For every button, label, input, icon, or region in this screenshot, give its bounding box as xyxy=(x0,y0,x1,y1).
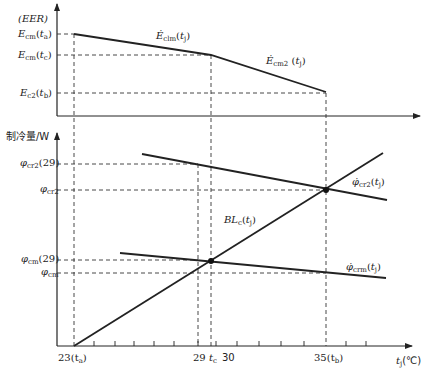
x-tick-label-30: 30 xyxy=(222,353,235,363)
top-y-axis-label: (EER) xyxy=(18,14,48,24)
tick-label-phi-cm: φcm xyxy=(41,267,59,279)
bottom-chart-axes xyxy=(57,133,412,346)
eer-cooling-capacity-diagram: (EER) Ecm(ta) Ecm(tc) Ec2(tb) Ėclm(tj) Ė… xyxy=(0,0,429,374)
intersection-point-tc xyxy=(208,258,214,264)
tick-label-phi-cm-29: φcm(29) xyxy=(21,254,59,266)
phi-cr2-curve xyxy=(142,154,387,200)
tick-label-phi-cr2-29: φcr2(29) xyxy=(20,158,59,170)
bottom-chart-guides xyxy=(57,164,326,346)
curve-label-bl-c: BLc(tj) xyxy=(224,215,256,227)
x-axis-ticks xyxy=(94,341,366,346)
curve-label-ecm2: Ėcm2 (tj) xyxy=(266,56,306,68)
x-tick-label-35: 35(tb) xyxy=(314,353,343,365)
curve-label-eclm: Ėclm(tj) xyxy=(156,31,190,43)
x-axis-label: tj(℃) xyxy=(396,356,421,368)
tick-label-ecm-ta: Ecm(ta) xyxy=(18,29,52,41)
x-tick-label-23: 23(ta) xyxy=(58,353,87,365)
tick-label-ecm-tc: Ecm(tc) xyxy=(18,50,52,62)
tick-label-phi-cr2: φcr2 xyxy=(40,184,59,196)
bl-c-curve xyxy=(74,153,383,346)
curve-label-phi-cr2: φ̇cr2(tj) xyxy=(352,177,385,189)
intersection-point-tb xyxy=(323,187,329,193)
bottom-y-axis-label: 制冷量/W xyxy=(6,132,49,142)
top-chart-axes xyxy=(57,4,420,116)
tick-label-ec2-tb: Ec2(tb) xyxy=(20,88,52,100)
x-tick-label-29: 29 tc xyxy=(193,353,217,365)
curve-label-phi-crm: φ̇crm(tj) xyxy=(346,262,381,274)
